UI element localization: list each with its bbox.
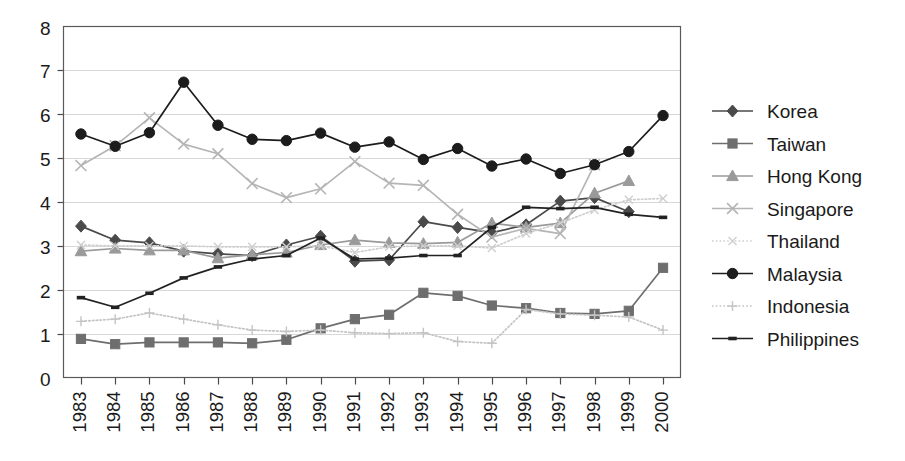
data-point-marker <box>111 306 119 310</box>
legend-item-singapore[interactable]: Singapore <box>712 199 854 220</box>
data-point-marker <box>110 141 120 151</box>
data-point-marker <box>77 296 85 300</box>
data-point-marker <box>452 209 463 220</box>
data-point-marker <box>522 205 530 209</box>
data-point-marker <box>145 291 153 295</box>
data-point-marker <box>76 160 87 171</box>
x-axis-tick-label: 1991 <box>343 392 364 433</box>
series-taiwan <box>76 263 667 349</box>
data-point-marker <box>625 212 633 216</box>
data-point-marker <box>350 328 360 338</box>
data-point-marker <box>487 161 497 171</box>
data-point-marker <box>144 112 155 123</box>
data-point-marker <box>179 314 189 324</box>
x-axis-tick-label: 1993 <box>411 392 432 433</box>
legend-item-indonesia[interactable]: Indonesia <box>712 296 850 317</box>
data-point-marker <box>247 325 257 335</box>
data-point-marker <box>385 310 394 319</box>
legend-item-taiwan[interactable]: Taiwan <box>712 134 826 155</box>
legend-label: Hong Kong <box>767 166 862 187</box>
legend-label: Korea <box>767 101 818 122</box>
data-point-marker <box>418 328 428 338</box>
x-axis-tick-label: 1992 <box>377 392 398 433</box>
data-point-marker <box>76 220 87 232</box>
y-axis-tick-label: 4 <box>40 193 51 214</box>
y-axis-tick-label: 7 <box>40 61 51 82</box>
y-axis-tick-label: 1 <box>40 325 51 346</box>
x-axis-tick-label: 1998 <box>583 392 604 433</box>
data-point-marker <box>315 183 326 194</box>
data-point-marker <box>728 301 738 311</box>
data-point-marker <box>521 154 531 164</box>
data-point-marker <box>452 221 463 233</box>
x-axis-tick-label: 1989 <box>274 392 295 433</box>
series-line <box>81 82 663 173</box>
data-point-marker <box>418 154 428 164</box>
data-point-marker <box>453 291 462 300</box>
data-point-marker <box>213 148 224 159</box>
data-point-marker <box>350 315 359 324</box>
data-point-marker <box>247 134 257 144</box>
y-axis-tick-label: 6 <box>40 105 51 126</box>
data-point-marker <box>555 195 566 207</box>
data-point-marker <box>488 226 496 230</box>
data-point-marker <box>453 337 463 347</box>
legend-label: Indonesia <box>767 296 850 317</box>
data-point-marker <box>247 178 258 189</box>
data-point-marker <box>385 256 393 260</box>
legend-item-malaysia[interactable]: Malaysia <box>712 264 842 285</box>
data-point-marker <box>76 129 86 139</box>
data-point-marker <box>316 236 324 240</box>
data-point-marker <box>179 276 187 280</box>
data-point-marker <box>589 160 599 170</box>
legend-item-thailand[interactable]: Thailand <box>712 231 840 252</box>
data-point-marker <box>658 263 667 272</box>
legend-label: Singapore <box>767 199 854 220</box>
y-axis-ticks <box>58 71 64 335</box>
chart-legend: KoreaTaiwanHong KongSingaporeThailandMal… <box>712 101 862 350</box>
x-axis-tick-label: 1984 <box>103 392 124 433</box>
data-point-marker <box>282 254 290 258</box>
data-point-marker <box>145 338 154 347</box>
data-point-marker <box>281 192 292 203</box>
x-axis-tick-label: 1988 <box>240 392 261 433</box>
legend-label: Taiwan <box>767 134 826 155</box>
data-point-marker <box>727 105 738 117</box>
y-axis-tick-label: 5 <box>40 149 51 170</box>
data-point-marker <box>178 139 189 150</box>
y-axis-tick-label: 2 <box>40 281 51 302</box>
data-point-marker <box>315 128 325 138</box>
series-malaysia <box>76 77 668 179</box>
legend-item-philippines[interactable]: Philippines <box>712 329 859 350</box>
data-point-marker <box>728 139 737 148</box>
x-axis-tick-label: 1985 <box>137 392 158 433</box>
x-axis-tick-label: 1990 <box>309 392 330 433</box>
data-point-marker <box>109 243 121 254</box>
x-axis-tick-label: 1999 <box>617 392 638 433</box>
data-point-marker <box>623 175 635 186</box>
data-point-marker <box>144 308 154 318</box>
data-point-marker <box>728 337 736 341</box>
y-axis-tick-labels: 012345678 <box>40 18 51 390</box>
legend-item-hong-kong[interactable]: Hong Kong <box>712 166 862 187</box>
data-point-marker <box>76 316 86 326</box>
data-point-marker <box>76 334 85 343</box>
x-axis-tick-label: 1987 <box>206 392 227 433</box>
legend-label: Malaysia <box>767 264 842 285</box>
series-line <box>81 310 663 344</box>
data-point-marker <box>214 265 222 269</box>
data-point-marker <box>349 156 360 167</box>
data-point-marker <box>213 120 223 130</box>
data-point-marker <box>727 268 737 278</box>
series-line <box>81 118 595 237</box>
data-point-marker <box>453 254 461 258</box>
legend-item-korea[interactable]: Korea <box>712 101 818 122</box>
data-point-marker <box>350 142 360 152</box>
data-point-marker <box>282 335 291 344</box>
y-axis-tick-label: 3 <box>40 237 51 258</box>
series-hong-kong <box>75 175 634 263</box>
x-axis-tick-labels: 1983198419851986198719881989199019911992… <box>69 392 672 433</box>
data-point-marker <box>488 244 496 252</box>
x-axis-tick-label: 1994 <box>446 392 467 433</box>
y-axis-tick-label: 0 <box>40 369 51 390</box>
